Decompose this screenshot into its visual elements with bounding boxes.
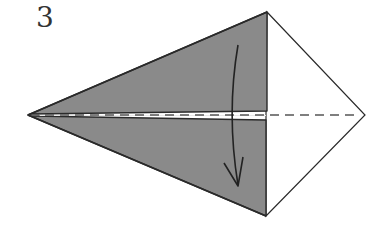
white-paper-region bbox=[266, 12, 365, 216]
fold-diagram-svg bbox=[0, 0, 385, 250]
origami-diagram: 3 bbox=[0, 0, 385, 250]
